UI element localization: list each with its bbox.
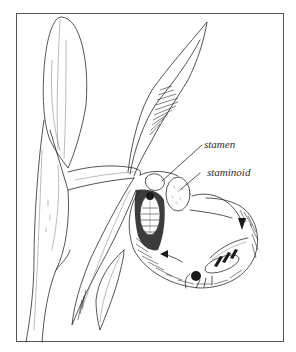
staminoid-label: staminoid bbox=[207, 166, 251, 178]
stamen-leader-line bbox=[162, 145, 202, 181]
ovary-stalk bbox=[68, 166, 141, 190]
orchid-illustration: stamen staminoid bbox=[0, 0, 296, 352]
stamen bbox=[140, 171, 178, 190]
bee-in-flower bbox=[135, 189, 165, 250]
staminoid bbox=[166, 177, 190, 211]
staminoid-leader-line bbox=[180, 173, 200, 190]
left-leaf bbox=[43, 17, 87, 168]
arrow-left-icon bbox=[160, 250, 168, 258]
stem bbox=[26, 120, 70, 342]
leaf-shading bbox=[150, 86, 178, 135]
pollination-path-arrows bbox=[160, 194, 246, 262]
upper-right-leaf bbox=[128, 22, 207, 176]
arrow-down-icon bbox=[238, 218, 246, 230]
lower-petals bbox=[72, 178, 136, 330]
stamen-label: stamen bbox=[204, 138, 236, 150]
illustration-canvas: stamen staminoid bbox=[0, 0, 296, 352]
bee-exiting bbox=[185, 238, 248, 288]
